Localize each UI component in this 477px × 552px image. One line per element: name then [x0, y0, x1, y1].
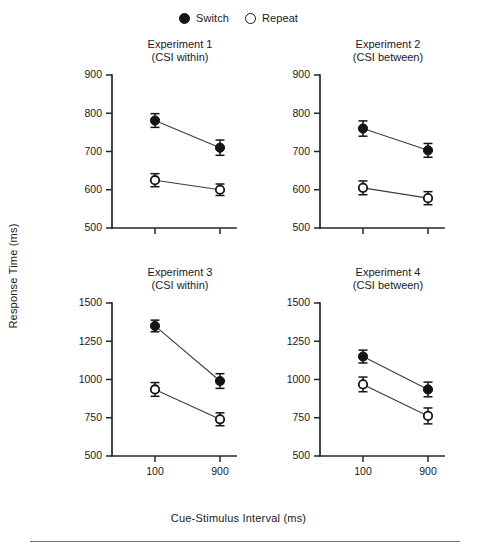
x-axis-title-text: Cue-Stimulus Interval (ms)	[171, 512, 306, 524]
y-tick-label-1250: 1250	[287, 335, 311, 347]
open-circle-icon	[245, 13, 256, 24]
panel-experiment-3: Experiment 3(CSI within)5007501000125015…	[50, 266, 240, 471]
y-tick-label-500: 500	[292, 449, 310, 461]
y-tick-label-500: 500	[84, 221, 102, 233]
series-switch	[150, 114, 224, 156]
open-circle-icon	[424, 412, 432, 420]
panel-subtitle-2: (CSI between)	[353, 51, 423, 63]
x-axis-title: Cue-Stimulus Interval (ms)	[0, 512, 477, 524]
y-tick-label-600: 600	[292, 183, 310, 195]
filled-circle-icon	[358, 124, 367, 133]
y-axis-title-text: Response Time (ms)	[7, 223, 19, 328]
y-tick-label-900: 900	[292, 68, 310, 80]
plot-grid: Experiment 1(CSI within)500600700800900 …	[30, 38, 470, 508]
y-tick-label-1250: 1250	[79, 335, 103, 347]
panel-experiment-2: Experiment 2(CSI between)500600700800900	[258, 38, 448, 243]
y-tick-label-800: 800	[84, 107, 102, 119]
filled-circle-icon	[150, 116, 159, 125]
filled-circle-icon	[423, 385, 432, 394]
x-tick-label-100: 100	[146, 465, 164, 477]
panel-experiment-1: Experiment 1(CSI within)500600700800900	[50, 38, 240, 243]
filled-circle-icon	[423, 146, 432, 155]
filled-circle-icon	[150, 321, 159, 330]
chart-3: Experiment 3(CSI within)5007501000125015…	[50, 266, 240, 471]
y-tick-label-1500: 1500	[79, 296, 103, 308]
open-circle-icon	[359, 184, 367, 192]
y-tick-label-800: 800	[292, 107, 310, 119]
series-repeat	[359, 181, 433, 205]
x-tick-label-900: 900	[419, 465, 437, 477]
panel-subtitle-3: (CSI within)	[152, 279, 209, 291]
panel-title-3: Experiment 3	[148, 266, 213, 278]
series-repeat	[359, 377, 433, 424]
y-tick-label-900: 900	[84, 68, 102, 80]
chart-1: Experiment 1(CSI within)500600700800900	[50, 38, 240, 243]
y-tick-label-750: 750	[292, 411, 310, 423]
y-tick-label-1000: 1000	[79, 373, 103, 385]
y-tick-label-600: 600	[84, 183, 102, 195]
filled-circle-icon	[215, 143, 224, 152]
x-tick-label-900: 900	[211, 465, 229, 477]
series-switch	[358, 121, 432, 157]
footer-divider	[30, 541, 460, 542]
series-switch	[150, 320, 224, 388]
series-switch	[358, 350, 432, 397]
legend: Switch Repeat	[0, 12, 477, 24]
x-tick-label-100: 100	[354, 465, 372, 477]
series-repeat	[151, 174, 225, 196]
open-circle-icon	[424, 194, 432, 202]
panel-title-2: Experiment 2	[356, 38, 421, 50]
chart-2: Experiment 2(CSI between)500600700800900	[258, 38, 448, 243]
filled-circle-icon	[179, 13, 190, 24]
chart-4: Experiment 4(CSI between)500750100012501…	[258, 266, 448, 471]
panel-subtitle-1: (CSI within)	[152, 51, 209, 63]
y-tick-label-750: 750	[84, 411, 102, 423]
filled-circle-icon	[358, 352, 367, 361]
y-tick-label-500: 500	[292, 221, 310, 233]
y-tick-label-700: 700	[292, 145, 310, 157]
legend-label-switch: Switch	[196, 12, 229, 24]
y-axis-title: Response Time (ms)	[0, 0, 26, 552]
y-tick-label-700: 700	[84, 145, 102, 157]
open-circle-icon	[216, 415, 224, 423]
open-circle-icon	[151, 385, 159, 393]
open-circle-icon	[216, 186, 224, 194]
series-repeat	[151, 383, 225, 426]
legend-entry-repeat: Repeat	[245, 12, 298, 24]
legend-label-repeat: Repeat	[262, 12, 298, 24]
open-circle-icon	[359, 380, 367, 388]
panel-title-4: Experiment 4	[356, 266, 421, 278]
panel-subtitle-4: (CSI between)	[353, 279, 423, 291]
y-tick-label-500: 500	[84, 449, 102, 461]
legend-entry-switch: Switch	[179, 12, 229, 24]
y-tick-label-1000: 1000	[287, 373, 311, 385]
filled-circle-icon	[215, 376, 224, 385]
open-circle-icon	[151, 176, 159, 184]
panel-title-1: Experiment 1	[148, 38, 213, 50]
y-tick-label-1500: 1500	[287, 296, 311, 308]
panel-experiment-4: Experiment 4(CSI between)500750100012501…	[258, 266, 448, 471]
